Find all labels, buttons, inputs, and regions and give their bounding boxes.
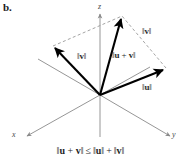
triangle-inequality-formula: ‖u + v‖≤‖u‖+‖v‖ [0, 145, 181, 156]
norm-bar-close: ‖ [133, 50, 135, 60]
plus-operator: + [65, 145, 76, 156]
norm-bar-close: ‖ [122, 145, 125, 156]
vector-u-arrow [100, 70, 163, 95]
magnitude-label-u-right: ‖u‖ [142, 83, 152, 92]
plus-operator: + [104, 145, 114, 156]
axis-label-y: y [172, 131, 176, 139]
axis-label-x: x [12, 131, 16, 139]
less-than-or-equal-operator: ≤ [83, 145, 93, 156]
axis-x [27, 67, 150, 136]
plus-operator: + [119, 50, 128, 60]
magnitude-label-u-plus-v: ‖u + v‖ [112, 51, 135, 60]
axis-y [38, 59, 170, 136]
norm-bar-close: ‖ [149, 82, 151, 92]
norm-bar-close: ‖ [84, 51, 86, 61]
axis-label-z: z [98, 3, 101, 11]
vector-triangle-inequality-figure: b. [0, 0, 181, 163]
magnitude-label-v-right: ‖v‖ [142, 27, 151, 36]
norm-bar-close: ‖ [149, 26, 151, 36]
magnitude-label-v-left: ‖v‖ [77, 52, 86, 61]
vector-diagram-canvas [0, 0, 181, 163]
